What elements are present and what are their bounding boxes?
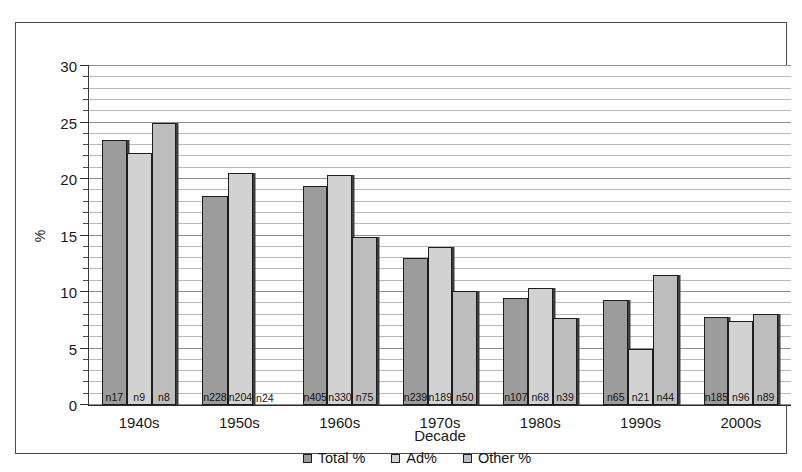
bar-count-label: n50 [453, 392, 476, 403]
y-axis-tick-label: 25 [60, 115, 77, 130]
y-axis-title: % [32, 230, 48, 242]
bar-group-bars: n228n204n24 [189, 66, 289, 405]
y-axis-tick-label: 30 [60, 59, 77, 74]
bar[interactable]: n239 [403, 258, 428, 405]
y-axis-tick [80, 178, 89, 179]
bar[interactable]: n89 [753, 314, 778, 405]
x-axis-category-label: 1940s [119, 414, 160, 431]
bar-group: n185n96n892000s [691, 66, 791, 405]
bar-count-label: n24 [253, 393, 276, 404]
legend-item-label: Ad% [406, 450, 437, 466]
x-axis-category-label: 1970s [420, 414, 461, 431]
legend-item[interactable]: Ad% [391, 450, 437, 466]
bar[interactable]: n65 [603, 300, 628, 405]
bar-group-bars: n107n68n39 [490, 66, 590, 405]
bar[interactable]: n185 [704, 317, 729, 405]
legend-item[interactable]: Other % [463, 450, 531, 466]
plot-area: 051015202530 n17n9n81940sn228n204n241950… [88, 66, 791, 406]
bar[interactable]: n17 [102, 140, 127, 405]
bar-count-label: n89 [754, 392, 777, 403]
bar[interactable]: n9 [127, 153, 152, 405]
bar[interactable]: n8 [152, 123, 177, 405]
bar-group-bars: n65n21n44 [590, 66, 690, 405]
bar-count-label: n17 [103, 392, 126, 403]
bar-count-label: n107 [504, 392, 527, 403]
bar-count-label: n8 [153, 392, 176, 403]
bar[interactable]: n39 [553, 318, 578, 405]
bar-group: n228n204n241950s [189, 66, 289, 405]
bar-group-bars: n17n9n8 [89, 66, 189, 405]
y-axis-tick [80, 404, 89, 405]
legend-item[interactable]: Total % [303, 450, 366, 466]
bar-count-label: n68 [529, 392, 552, 403]
bar[interactable]: n44 [653, 275, 678, 405]
bar-count-label: n65 [604, 392, 627, 403]
bar[interactable]: n330 [327, 175, 352, 405]
bar-group: n17n9n81940s [89, 66, 189, 405]
y-axis-tick [80, 348, 89, 349]
bar-group-bars: n405n330n75 [290, 66, 390, 405]
chart-figure: % Decade 051015202530 n17n9n81940sn228n2… [0, 0, 802, 472]
x-axis-category-label: 1960s [319, 414, 360, 431]
bar-count-label: n21 [629, 392, 652, 403]
bar[interactable]: n21 [628, 349, 653, 405]
legend-item-label: Other % [478, 450, 531, 466]
y-axis-tick [80, 235, 89, 236]
chart-legend: Total %Ad%Other % [31, 450, 802, 466]
bar[interactable]: n96 [728, 321, 753, 405]
bar-group: n107n68n391980s [490, 66, 590, 405]
bar[interactable]: n68 [528, 288, 553, 405]
bar-count-label: n330 [328, 392, 351, 403]
bar-group: n405n330n751960s [290, 66, 390, 405]
bar-group-bars: n185n96n89 [691, 66, 791, 405]
x-axis-category-label: 2000s [720, 414, 761, 431]
bar[interactable]: n107 [503, 298, 528, 405]
bar[interactable]: n189 [428, 247, 453, 405]
legend-item-label: Total % [318, 450, 366, 466]
y-axis-tick [80, 65, 89, 66]
bar-count-label: n39 [554, 392, 577, 403]
bar-count-label: n185 [705, 392, 728, 403]
bar-count-label: n75 [353, 392, 376, 403]
bar-count-label: n189 [429, 392, 452, 403]
bar[interactable]: n50 [452, 291, 477, 405]
y-axis-tick-label: 10 [60, 285, 77, 300]
bar-count-label: n96 [729, 392, 752, 403]
y-axis-tick-label: 5 [69, 341, 77, 356]
x-axis-category-label: 1980s [520, 414, 561, 431]
figure-border: % Decade 051015202530 n17n9n81940sn228n2… [15, 22, 787, 454]
legend-swatch-icon [303, 454, 312, 463]
y-axis-tick-label: 15 [60, 228, 77, 243]
bar[interactable]: n204 [228, 173, 253, 405]
bar-count-label: n228 [203, 392, 226, 403]
bar-group-bars: n239n189n50 [390, 66, 490, 405]
x-axis-category-label: 1990s [620, 414, 661, 431]
bar-groups: n17n9n81940sn228n204n241950sn405n330n751… [89, 66, 791, 405]
y-axis-tick-label: 20 [60, 172, 77, 187]
bar-count-label: n204 [229, 392, 252, 403]
bar-count-label: n239 [404, 392, 427, 403]
bar-count-label: n44 [654, 392, 677, 403]
bar-group: n239n189n501970s [390, 66, 490, 405]
bar-count-label: n9 [128, 392, 151, 403]
y-axis-tick [80, 122, 89, 123]
bar[interactable]: n405 [303, 186, 328, 405]
bar[interactable]: n75 [352, 237, 377, 405]
bar-count-label: n405 [304, 392, 327, 403]
x-axis-category-label: 1950s [219, 414, 260, 431]
legend-swatch-icon [463, 454, 472, 463]
bar[interactable]: n228 [202, 196, 227, 405]
legend-swatch-icon [391, 454, 400, 463]
y-axis-tick-label: 0 [69, 398, 77, 413]
bar-group: n65n21n441990s [590, 66, 690, 405]
y-axis-tick [80, 291, 89, 292]
